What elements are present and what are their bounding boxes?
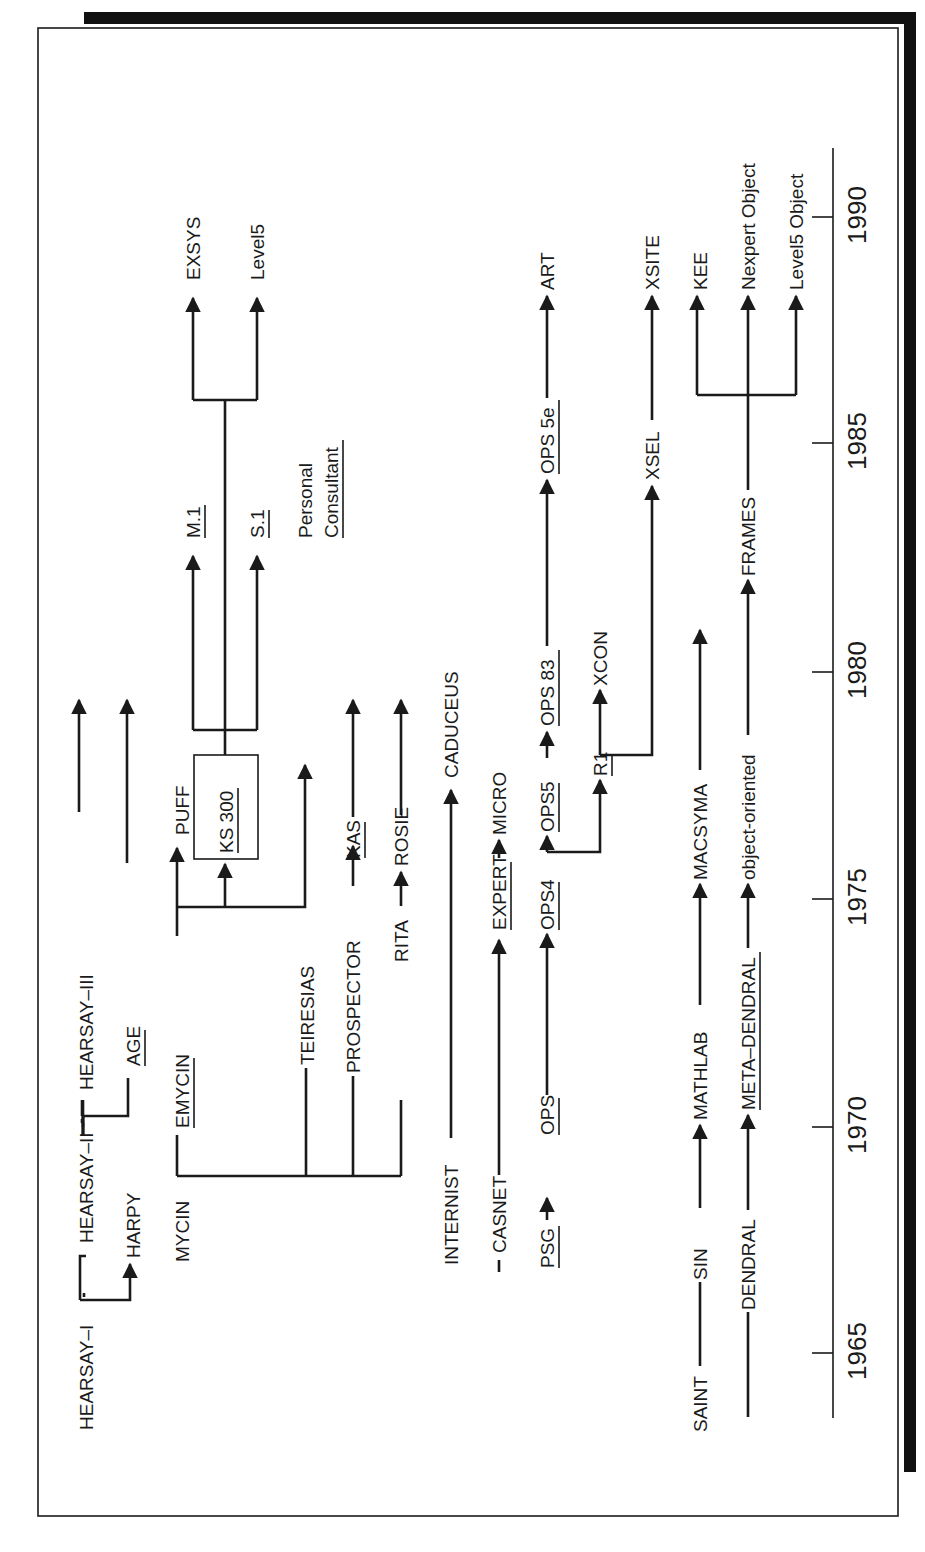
timeline-diagram: 1965 1970 1975 1980 1985 1990 xyxy=(0,0,925,1552)
node-frames: FRAMES xyxy=(738,497,759,576)
node-ops4: OPS4 xyxy=(537,879,558,930)
node-psg: PSG xyxy=(537,1228,558,1268)
node-consultant: Consultant xyxy=(321,446,342,538)
node-hearsay2: HEARSAY–II xyxy=(76,1132,97,1243)
node-dendral: DENDRAL xyxy=(738,1219,759,1310)
node-level5: Level5 xyxy=(247,224,268,280)
tick-1990: 1990 xyxy=(842,186,872,244)
node-rosie: ROSIE xyxy=(391,807,412,866)
tick-1970: 1970 xyxy=(842,1096,872,1154)
tick-1985: 1985 xyxy=(842,412,872,470)
node-ops5: OPS5 xyxy=(537,781,558,832)
node-xsel: XSEL xyxy=(642,431,663,480)
node-prospector: PROSPECTOR xyxy=(343,940,364,1073)
node-ops: OPS xyxy=(537,1095,558,1135)
tick-1965: 1965 xyxy=(842,1322,872,1380)
node-micro: MICRO xyxy=(489,772,510,835)
frame-shadow-right xyxy=(904,12,916,1472)
node-mycin: MYCIN xyxy=(172,1201,193,1262)
node-nexpert-object: Nexpert Object xyxy=(738,163,759,290)
node-m1: M.1 xyxy=(183,506,204,538)
node-xcon: XCON xyxy=(590,631,611,686)
node-rita: RITA xyxy=(391,920,412,962)
node-harpy: HARPY xyxy=(123,1192,144,1258)
node-ks300: KS 300 xyxy=(216,791,237,853)
frame-shadow-top xyxy=(84,12,916,24)
diagram-canvas: 1965 1970 1975 1980 1985 1990 xyxy=(0,0,925,1552)
node-ops5e: OPS 5e xyxy=(537,407,558,474)
node-xsite: XSITE xyxy=(642,235,663,290)
node-metadendral: META–DENDRAL xyxy=(738,957,759,1110)
node-caduceus: CADUCEUS xyxy=(441,671,462,778)
node-macsyma: MACSYMA xyxy=(690,784,711,880)
node-kee: KEE xyxy=(690,252,711,290)
node-sin: SIN xyxy=(690,1248,711,1280)
node-internist: INTERNIST xyxy=(441,1164,462,1265)
tick-1980: 1980 xyxy=(842,641,872,699)
node-hearsay1: HEARSAY–I xyxy=(76,1325,97,1430)
node-s1: S.1 xyxy=(247,509,268,538)
node-hearsay3: HEARSAY–III xyxy=(76,974,97,1090)
node-casnet: CASNET xyxy=(489,1176,510,1253)
node-puff: PUFF xyxy=(172,785,193,835)
node-kas: KAS xyxy=(343,820,364,858)
node-mathlab: MATHLAB xyxy=(690,1032,711,1120)
node-personal: Personal xyxy=(295,463,316,538)
node-exsys: EXSYS xyxy=(183,217,204,280)
node-object-oriented: object-oriented xyxy=(738,754,759,880)
node-emycin: EMYCIN xyxy=(172,1054,193,1128)
node-art: ART xyxy=(537,252,558,290)
node-r1: R1 xyxy=(590,752,611,776)
node-ops83: OPS 83 xyxy=(537,659,558,726)
tick-1975: 1975 xyxy=(842,868,872,926)
node-teiresias: TEIRESIAS xyxy=(297,966,318,1065)
node-age: AGE xyxy=(123,1026,144,1066)
node-expert: EXPERT xyxy=(489,854,510,930)
node-level5-object: Level5 Object xyxy=(786,173,807,290)
node-saint: SAINT xyxy=(690,1376,711,1432)
frame-border xyxy=(38,28,898,1516)
